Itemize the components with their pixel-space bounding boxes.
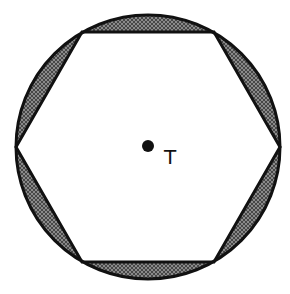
center-point-dot	[142, 140, 154, 152]
center-point-label: T	[163, 145, 177, 169]
inscribed-hexagon-diagram: T	[0, 0, 290, 294]
